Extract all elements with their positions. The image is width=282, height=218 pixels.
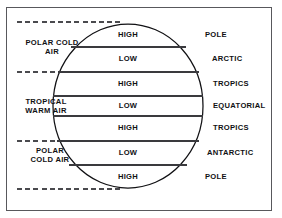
zone-label-pole-south: POLE <box>205 173 227 182</box>
zone-label-antarctic: ANTARCTIC <box>207 149 253 158</box>
zone-label-tropics-north: TROPICS <box>213 80 249 89</box>
band-pressure-label-5: HIGH <box>118 124 138 133</box>
zone-label-arctic: ARCTIC <box>212 55 242 64</box>
zone-label-tropics-south: TROPICS <box>213 124 249 133</box>
band-pressure-label-2: LOW <box>119 55 138 64</box>
band-pressure-label-4: LOW <box>119 102 138 111</box>
pressure-belt-diagram: HIGH LOW HIGH LOW HIGH LOW HIGH POLE ARC… <box>0 0 282 218</box>
zone-label-equatorial: EQUATORIAL <box>213 102 266 111</box>
air-mass-label-polar-south: POLAR COLD AIR <box>31 147 70 164</box>
band-pressure-label-7: HIGH <box>118 173 138 182</box>
air-mass-label-polar-north: POLAR COLD AIR <box>25 39 78 56</box>
band-pressure-label-1: HIGH <box>118 31 138 40</box>
band-pressure-label-6: LOW <box>119 149 138 158</box>
band-pressure-label-3: HIGH <box>118 80 138 89</box>
zone-label-pole-north: POLE <box>205 31 227 40</box>
air-mass-label-tropical: TROPICAL WARM AIR <box>25 98 66 115</box>
